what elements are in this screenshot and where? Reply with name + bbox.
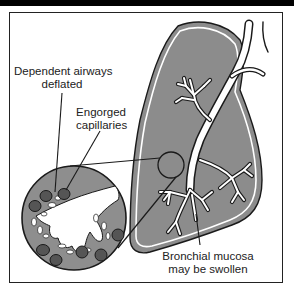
label-dependent-airways: Dependent airways deflated bbox=[14, 65, 110, 91]
label-bronchial-line1: Bronchial mucosa bbox=[158, 250, 258, 263]
label-engorged-line1: Engorged bbox=[76, 106, 126, 119]
label-engorged-capillaries: Engorged capillaries bbox=[76, 106, 126, 132]
label-dependent-airways-line1: Dependent airways bbox=[14, 65, 110, 78]
label-bronchial-line2: may be swollen bbox=[158, 263, 258, 276]
label-dependent-airways-line2: deflated bbox=[14, 78, 110, 91]
label-engorged-line2: capillaries bbox=[76, 119, 126, 132]
label-bronchial-mucosa: Bronchial mucosa may be swollen bbox=[158, 250, 258, 276]
magnified-inset bbox=[22, 166, 126, 270]
